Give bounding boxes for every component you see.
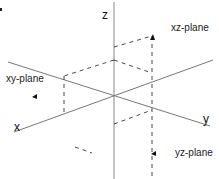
xz-plane-label: xz-plane <box>171 23 209 33</box>
xy-plane-label: xy-plane <box>6 74 44 84</box>
corner-mark-icon <box>0 8 2 11</box>
xy-plane-marker-icon <box>32 94 37 99</box>
x-axis-label: x <box>14 121 20 133</box>
yz-plane-label: yz-plane <box>175 148 213 158</box>
dashed-box <box>64 36 152 179</box>
xz-plane-marker-icon <box>150 34 155 40</box>
z-axis-label: z <box>102 9 108 21</box>
y-axis-label: y <box>203 113 209 125</box>
